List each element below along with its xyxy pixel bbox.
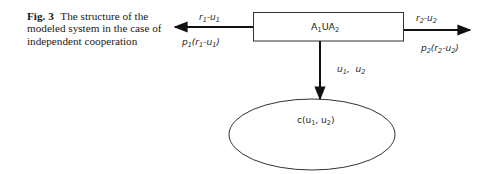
diagram-canvas [0,0,490,174]
left-arrow-top-label: r1-u1 [199,12,220,24]
right-arrow-bottom-label: p2(r2-u2) [421,43,459,55]
right-arrow-top-label: r2-u2 [416,13,437,25]
box-label: A1UA2 [311,21,339,34]
ellipse-label: c(u1, u2) [297,115,334,127]
down-arrow-label: u1, u2 [337,64,365,76]
cost-ellipse [229,99,395,170]
left-arrow-bottom-label: p1(r1-u1) [182,37,220,49]
